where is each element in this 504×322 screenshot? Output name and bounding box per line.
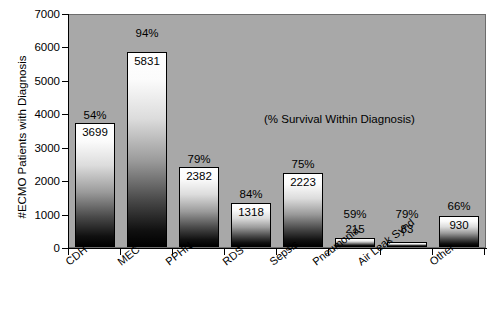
- y-tick-label-2000: 2000: [24, 176, 60, 188]
- plot-inner: 3699 54% 5831 94% 2382 79% 1318 84% 2223…: [69, 15, 485, 247]
- pct-label-cdh: 54%: [75, 110, 115, 122]
- x-label-cdh: CDH: [63, 243, 89, 267]
- bar-mec[interactable]: 5831: [127, 52, 167, 247]
- y-tick-1000: [62, 215, 69, 216]
- y-tick-7000: [62, 14, 69, 15]
- y-tick-4000: [62, 114, 69, 115]
- y-tick-label-7000: 7000: [24, 9, 60, 21]
- bar-sepsis[interactable]: 2223: [283, 173, 323, 247]
- bar-value-other: 930: [440, 220, 478, 232]
- plot-area: 3699 54% 5831 94% 2382 79% 1318 84% 2223…: [68, 14, 486, 248]
- pct-label-pphn: 79%: [179, 154, 219, 166]
- pct-label-sepsis: 75%: [283, 159, 323, 171]
- y-tick-label-5000: 5000: [24, 76, 60, 88]
- bar-rds[interactable]: 1318: [231, 203, 271, 247]
- y-tick-2000: [62, 181, 69, 182]
- pct-label-mec: 94%: [127, 28, 167, 40]
- y-tick-label-0: 0: [24, 243, 60, 255]
- y-axis-title: #ECMO Patients with Diagnosis: [16, 42, 28, 232]
- ecmo-diagnosis-bar-chart: 7000 6000 5000 4000 3000 2000 1000 0 #EC…: [0, 0, 504, 322]
- survival-annotation: (% Survival Within Diagnosis): [264, 113, 415, 125]
- y-tick-label-4000: 4000: [24, 109, 60, 121]
- bar-value-rds: 1318: [232, 207, 270, 219]
- y-tick-5000: [62, 81, 69, 82]
- y-tick-6000: [62, 47, 69, 48]
- y-tick-label-3000: 3000: [24, 143, 60, 155]
- bar-cdh[interactable]: 3699: [75, 123, 115, 247]
- bar-value-cdh: 3699: [76, 127, 114, 139]
- pct-label-pneumonia: 59%: [335, 209, 375, 221]
- x-tick-8: [484, 249, 485, 255]
- pct-label-other: 66%: [439, 201, 479, 213]
- bar-value-pphn: 2382: [180, 171, 218, 183]
- y-tick-label-1000: 1000: [24, 210, 60, 222]
- y-tick-3000: [62, 148, 69, 149]
- bar-value-sepsis: 2223: [284, 177, 322, 189]
- y-tick-label-6000: 6000: [24, 42, 60, 54]
- pct-label-rds: 84%: [231, 189, 271, 201]
- bar-value-mec: 5831: [128, 56, 166, 68]
- bar-pphn[interactable]: 2382: [179, 167, 219, 247]
